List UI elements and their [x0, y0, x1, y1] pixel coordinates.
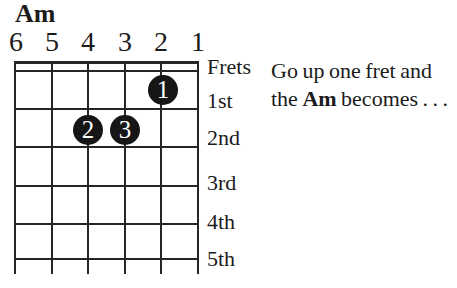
- string-number-3: 3: [110, 28, 140, 56]
- fret-line-2nd: [14, 146, 199, 148]
- fret-label-5th: 5th: [207, 247, 235, 271]
- fret-label-2nd: 2nd: [207, 126, 240, 150]
- fret-label-frets: Frets: [207, 55, 251, 79]
- caption-line-1: Go up one fret and: [271, 57, 457, 85]
- finger-dot-1: 1: [148, 75, 178, 105]
- fret-label-4th: 4th: [207, 210, 235, 234]
- string-number-2: 2: [146, 28, 176, 56]
- string-line-3: [124, 61, 126, 274]
- string-line-4: [87, 61, 89, 274]
- string-number-4: 4: [73, 28, 103, 56]
- finger-dot-2: 2: [73, 115, 103, 145]
- caption-line-2-pre: the: [271, 86, 302, 111]
- fret-line-4th: [14, 223, 199, 225]
- fret-line-1st: [14, 108, 199, 110]
- nut-line: [14, 61, 199, 64]
- finger-dot-3: 3: [110, 115, 140, 145]
- caption-line-2: the Am becomes . . .: [271, 85, 457, 113]
- chord-title: Am: [15, 1, 55, 27]
- nut-inner-line: [14, 70, 199, 72]
- string-number-5: 5: [37, 28, 67, 56]
- chord-lesson-page: Am 6 5 4 3 2 1 1 2 3 Frets 1st 2nd 3rd 4…: [0, 0, 457, 288]
- fret-label-1st: 1st: [207, 89, 233, 113]
- fret-line-5th: [14, 258, 199, 260]
- caption-line-2-post: becomes . . .: [337, 86, 448, 111]
- fret-label-3rd: 3rd: [207, 171, 236, 195]
- string-number-6: 6: [1, 28, 31, 56]
- string-line-6: [14, 61, 16, 274]
- caption-text: Go up one fret and the Am becomes . . .: [271, 57, 457, 113]
- string-line-1: [197, 61, 199, 274]
- string-line-5: [51, 61, 53, 274]
- string-number-1: 1: [183, 28, 213, 56]
- fret-line-3rd: [14, 185, 199, 187]
- caption-chord-name: Am: [302, 86, 336, 111]
